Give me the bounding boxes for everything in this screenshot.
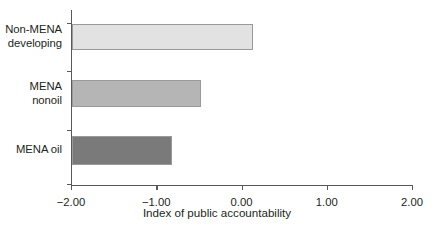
- bar-non-mena-developing[interactable]: [72, 24, 254, 50]
- bar-mena-nonoil[interactable]: [72, 80, 202, 107]
- x-axis-tick-pos1: [327, 185, 328, 190]
- category-label-column: Non-MENA developing MENA nonoil MENA oil: [0, 0, 62, 231]
- bar-mena-oil[interactable]: [72, 136, 173, 165]
- x-axis-tick-zero: [242, 185, 243, 190]
- bar-chart: Non-MENA developing MENA nonoil MENA oil…: [0, 0, 434, 231]
- category-label-mena-oil: MENA oil: [0, 143, 62, 157]
- x-axis-tick-neg1: [156, 185, 157, 190]
- y-axis-tick-3: [67, 130, 72, 131]
- x-axis-title: Index of public accountability: [0, 206, 434, 219]
- category-label-non-mena-developing: Non-MENA developing: [0, 23, 62, 50]
- x-axis-tick-pos2: [412, 185, 413, 190]
- plot-area: −2.00 −1.00 0.00 1.00 2.00: [71, 10, 412, 185]
- y-axis-tick-2: [67, 71, 72, 72]
- x-axis-tick-neg2: [71, 185, 72, 190]
- category-label-mena-nonoil: MENA nonoil: [0, 80, 62, 107]
